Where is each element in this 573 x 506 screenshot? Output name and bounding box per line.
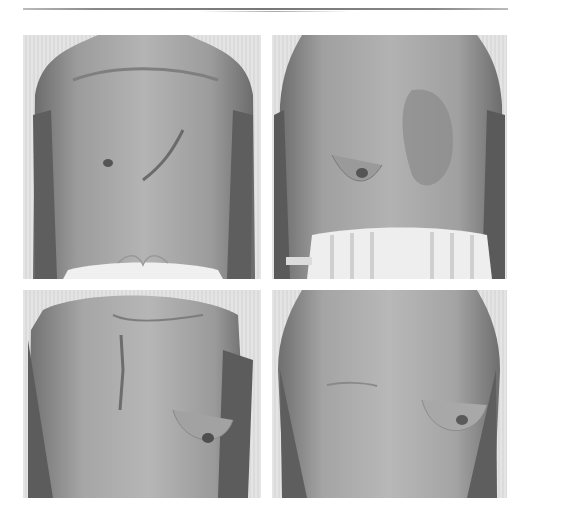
photo-bottom-left xyxy=(23,290,261,498)
torso-figure-4 xyxy=(272,290,507,498)
torso-figure-3 xyxy=(23,290,261,498)
photo-top-left xyxy=(23,35,261,279)
wristband xyxy=(286,257,312,265)
photo-top-right xyxy=(272,35,507,279)
photo-bottom-right xyxy=(272,290,507,498)
header-rule-accent xyxy=(200,11,350,12)
torso-figure-1 xyxy=(23,35,261,279)
page-header-text xyxy=(200,0,380,4)
header-rule xyxy=(23,8,508,10)
torso-figure-2 xyxy=(272,35,507,279)
